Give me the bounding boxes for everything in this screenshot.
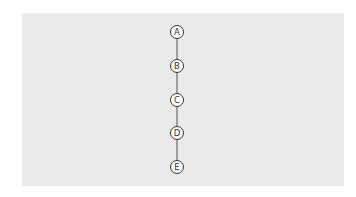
node-c-label: C [174, 95, 180, 105]
node-e: E [171, 161, 184, 174]
node-d: D [171, 127, 184, 140]
node-e-label: E [174, 162, 179, 172]
node-a-label: A [174, 27, 180, 37]
node-b-label: B [174, 61, 180, 71]
node-d-label: D [174, 128, 181, 138]
chain-diagram: A B C D E [0, 0, 356, 197]
node-a: A [171, 26, 184, 39]
node-b: B [171, 60, 184, 73]
node-c: C [171, 94, 184, 107]
